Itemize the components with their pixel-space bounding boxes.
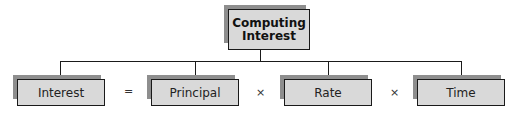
node-principal: Principal [151, 79, 239, 106]
node-rate: Rate [284, 79, 372, 106]
node-interest: Interest [17, 79, 105, 106]
horizontal-connector [60, 61, 462, 62]
operator-equals: = [124, 85, 133, 98]
operator-multiply-1: × [256, 86, 265, 99]
root-label-line1: Computing [232, 17, 306, 30]
node-time-label: Time [446, 86, 475, 100]
node-time: Time [417, 79, 505, 106]
node-rate-label: Rate [314, 86, 342, 100]
node-principal-label: Principal [169, 86, 220, 100]
operator-multiply-2: × [390, 86, 399, 99]
root-label-line2: Interest [242, 30, 296, 43]
node-interest-label: Interest [38, 86, 84, 100]
root-node: Computing Interest [228, 9, 310, 50]
root-connector [260, 50, 261, 61]
